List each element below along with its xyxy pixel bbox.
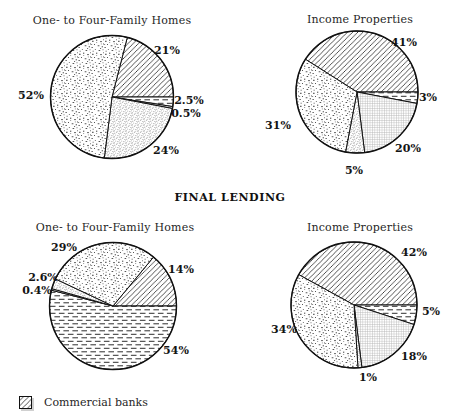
slice-label: 54% — [163, 344, 189, 357]
chart-title-bottom-right: Income Properties — [307, 221, 413, 234]
pie-chart-top-right: 41%3%20%5%31% — [265, 31, 437, 177]
slice-label: 24% — [153, 144, 179, 157]
chart-title-bottom-left: One- to Four-Family Homes — [36, 221, 195, 234]
slice-label: 0.5% — [171, 107, 201, 120]
slice-label: 42% — [401, 246, 427, 259]
slice-label: 1% — [359, 371, 378, 384]
slice-label: 18% — [401, 350, 427, 363]
slice-label: 14% — [168, 263, 194, 276]
slice-label: 20% — [395, 142, 421, 155]
pie-chart-bottom-right: 42%5%18%1%34% — [271, 242, 440, 384]
legend: Commercial banks — [19, 396, 148, 409]
slice-label: 0.4% — [22, 284, 52, 297]
commercial-banks-swatch-icon — [19, 396, 32, 409]
chart-title-top-right: Income Properties — [307, 13, 413, 26]
slice-label: 2.5% — [174, 94, 204, 107]
legend-label-commercial-banks: Commercial banks — [44, 396, 148, 409]
slice-label: 5% — [345, 164, 364, 177]
section-label-final-lending: FINAL LENDING — [174, 191, 285, 204]
pie-chart-top-left: 21%2.5%0.5%24%52% — [18, 36, 204, 159]
pie-chart-figure: 21%2.5%0.5%24%52%41%3%20%5%31%14%54%0.4%… — [0, 0, 457, 418]
slice-label: 5% — [422, 305, 441, 318]
slice-label: 41% — [391, 36, 417, 49]
slice-label: 29% — [51, 241, 77, 254]
slice-label: 3% — [419, 91, 438, 104]
slice-label: 31% — [265, 119, 291, 132]
slice-label: 52% — [18, 89, 44, 102]
pies-canvas: 21%2.5%0.5%24%52%41%3%20%5%31%14%54%0.4%… — [0, 0, 457, 418]
chart-title-top-left: One- to Four-Family Homes — [33, 14, 192, 27]
pie-chart-bottom-left: 14%54%0.4%2.6%29% — [22, 241, 194, 370]
slice-label: 21% — [154, 44, 180, 57]
